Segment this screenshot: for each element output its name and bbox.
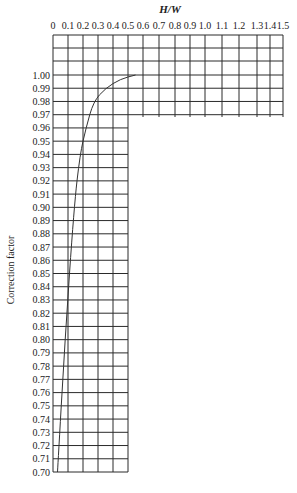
y-tick-label: 0.93 bbox=[33, 162, 51, 173]
y-tick-label: 0.72 bbox=[33, 440, 51, 451]
x-tick-label: 0.7 bbox=[153, 20, 166, 31]
y-tick-label: 0.83 bbox=[33, 294, 51, 305]
x-tick-label: 1.1 bbox=[216, 20, 229, 31]
x-tick-label: 0.1 bbox=[62, 20, 75, 31]
y-tick-label: 0.88 bbox=[33, 228, 51, 239]
x-tick-label: 1.0 bbox=[199, 20, 212, 31]
y-tick-label: 0.86 bbox=[33, 255, 51, 266]
x-tick-label: 1.2 bbox=[233, 20, 246, 31]
y-tick-label: 0.81 bbox=[33, 321, 51, 332]
y-tick-label: 0.79 bbox=[33, 347, 51, 358]
x-tick-label: 1.5 bbox=[277, 20, 290, 31]
y-tick-label: 0.91 bbox=[33, 189, 51, 200]
y-tick-label: 0.94 bbox=[33, 149, 51, 160]
y-tick-label: 0.80 bbox=[33, 334, 51, 345]
y-tick-label: 0.78 bbox=[33, 361, 51, 372]
y-tick-label: 0.98 bbox=[33, 96, 51, 107]
correction-factor-chart: H/W 00.10.20.30.40.50.60.70.80.91.01.11.… bbox=[0, 0, 297, 493]
x-tick-label: 0.8 bbox=[169, 20, 182, 31]
x-tick-label: 0.9 bbox=[184, 20, 197, 31]
x-axis-ticks: 00.10.20.30.40.50.60.70.80.91.01.11.21.3… bbox=[51, 20, 290, 31]
y-tick-label: 0.74 bbox=[33, 414, 51, 425]
x-tick-label: 0.2 bbox=[77, 20, 90, 31]
y-tick-label: 0.96 bbox=[33, 122, 51, 133]
y-tick-label: 0.73 bbox=[33, 427, 51, 438]
x-tick-label: 0.5 bbox=[122, 20, 135, 31]
y-tick-label: 0.82 bbox=[33, 308, 51, 319]
y-tick-label: 0.92 bbox=[33, 175, 51, 186]
y-tick-label: 0.84 bbox=[33, 281, 51, 292]
y-tick-label: 0.87 bbox=[33, 242, 51, 253]
y-tick-label: 0.97 bbox=[33, 109, 51, 120]
y-tick-label: 0.89 bbox=[33, 215, 51, 226]
y-tick-label: 1.00 bbox=[33, 70, 51, 81]
x-tick-label: 0 bbox=[51, 20, 56, 31]
y-axis-ticks: 1.000.990.980.970.960.950.940.930.920.91… bbox=[33, 70, 51, 478]
x-tick-label: 0.6 bbox=[137, 20, 150, 31]
y-tick-label: 0.85 bbox=[33, 268, 51, 279]
y-tick-label: 0.90 bbox=[33, 202, 51, 213]
x-tick-label: 0.3 bbox=[92, 20, 105, 31]
x-axis-title: H/W bbox=[158, 3, 182, 15]
x-tick-label: 1.4 bbox=[264, 20, 277, 31]
y-tick-label: 0.99 bbox=[33, 83, 51, 94]
chart-grid bbox=[53, 35, 283, 472]
x-tick-label: 1.3 bbox=[251, 20, 264, 31]
y-tick-label: 0.95 bbox=[33, 136, 51, 147]
y-tick-label: 0.71 bbox=[33, 453, 51, 464]
y-tick-label: 0.77 bbox=[33, 374, 51, 385]
y-tick-label: 0.75 bbox=[33, 400, 51, 411]
x-tick-label: 0.4 bbox=[107, 20, 120, 31]
y-axis-title: Correction factor bbox=[5, 235, 16, 304]
y-tick-label: 0.76 bbox=[33, 387, 51, 398]
y-tick-label: 0.70 bbox=[33, 467, 51, 478]
